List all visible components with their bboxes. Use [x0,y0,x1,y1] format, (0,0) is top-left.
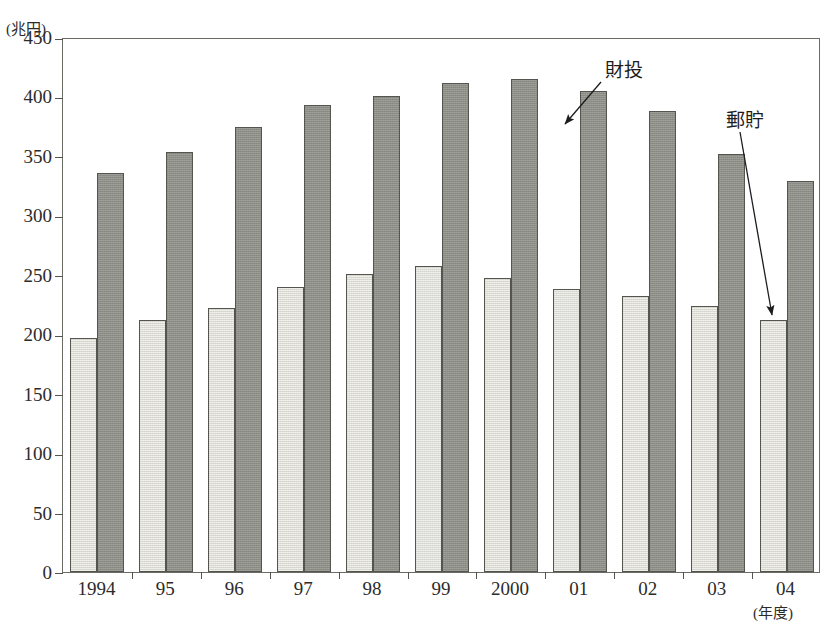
bar-財投-04 [787,181,814,572]
x-axis-tick-label-95: 95 [156,578,175,600]
y-axis-tick-labels: 050100150200250300350400450 [0,38,52,573]
x-axis-tick-label-02: 02 [638,578,657,600]
bar-郵貯-98 [346,274,373,572]
bar-郵貯-97 [277,287,304,572]
x-axis-unit-label: (年度) [753,606,793,621]
x-axis-tick-label-98: 98 [363,578,382,600]
bar-財投-1994 [97,173,124,572]
y-axis-tick [55,395,63,396]
y-axis-tick-label: 150 [0,385,52,404]
bar-郵貯-2000 [484,278,511,572]
bar-財投-02 [649,111,676,572]
y-axis-tick-label: 350 [0,147,52,166]
bar-財投-01 [580,91,607,573]
x-axis-tick-label-96: 96 [225,578,244,600]
x-axis-tick-label-1994: 1994 [77,578,115,600]
bar-郵貯-01 [553,289,580,572]
bar-郵貯-03 [691,306,718,572]
bar-郵貯-96 [208,308,235,572]
bar-財投-97 [304,105,331,572]
bar-財投-96 [235,127,262,572]
y-axis-tick [55,39,63,40]
y-axis-tick [55,276,63,277]
y-axis-tick [55,217,63,218]
y-axis-tick [55,98,63,99]
annotation-label-zaito: 財投 [605,60,643,80]
bar-郵貯-1994 [70,338,97,572]
bar-財投-99 [442,83,469,572]
y-axis-tick-label: 0 [0,563,52,582]
x-axis-tick-label-99: 99 [432,578,451,600]
y-axis-tick-label: 250 [0,266,52,285]
x-axis-tick-label-04: 04 [776,578,795,600]
y-axis-tick-label: 100 [0,444,52,463]
bar-郵貯-99 [415,266,442,572]
y-axis-tick [55,455,63,456]
y-axis-tick-label: 50 [0,504,52,523]
y-axis-tick-label: 200 [0,325,52,344]
bar-郵貯-02 [622,296,649,572]
bar-郵貯-04 [760,320,787,572]
y-axis-tick [55,157,63,158]
bar-財投-95 [166,152,193,572]
bar-財投-2000 [511,79,538,572]
x-axis-tick-labels: 19949596979899200001020304 [62,578,820,604]
bar-財投-03 [718,154,745,572]
y-axis-tick-label: 300 [0,206,52,225]
bar-財投-98 [373,96,400,572]
y-axis-tick [55,514,63,515]
x-axis-tick-label-03: 03 [707,578,726,600]
y-axis-tick [55,573,63,574]
cropped-title-strip [0,0,831,10]
y-axis-tick [55,336,63,337]
bar-郵貯-95 [139,320,166,572]
y-axis-tick-label: 450 [0,28,52,47]
chart-root: (兆円) 050100150200250300350400450 1994959… [0,0,831,637]
annotation-label-yucho: 郵貯 [726,110,764,130]
y-axis-tick-label: 400 [0,87,52,106]
plot-inner [63,39,819,572]
x-axis-tick-label-97: 97 [294,578,313,600]
x-axis-tick-label-2000: 2000 [491,578,529,600]
plot-area [62,38,820,573]
x-axis-tick-label-01: 01 [569,578,588,600]
